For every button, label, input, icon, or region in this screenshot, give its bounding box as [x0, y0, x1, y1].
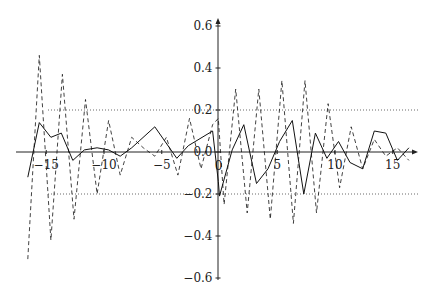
y-tick-label: −0.6	[183, 271, 212, 285]
y-tick-label: −0.2	[183, 187, 212, 201]
x-axis-arrow-icon	[412, 150, 418, 155]
x-tick-label: 10	[327, 158, 342, 172]
axes	[16, 18, 418, 280]
y-axis-arrow-icon	[216, 18, 221, 24]
y-tick-label: 0.6	[193, 19, 212, 33]
y-tick-label: 0.4	[193, 61, 212, 75]
x-tick-label: −5	[153, 158, 171, 172]
y-tick-label: 0.0	[193, 145, 212, 159]
y-tick-label: −0.4	[183, 229, 213, 243]
x-tick-label: −10	[91, 158, 116, 172]
line-chart: −15−10−50510150.60.40.20.0−0.2−0.4−0.6	[0, 0, 434, 293]
y-tick-label: 0.2	[193, 103, 212, 117]
